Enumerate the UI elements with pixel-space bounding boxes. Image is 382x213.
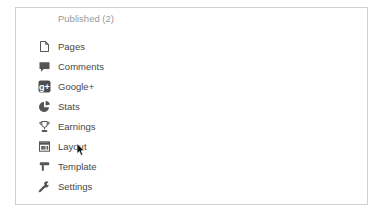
layout-icon [38,140,51,153]
sidebar-item-label: Stats [58,100,80,113]
svg-text:g+: g+ [39,81,50,91]
pages-icon [38,40,51,53]
sidebar-item-label: Pages [58,40,85,53]
sidebar-panel: Published (2) Pages Comments [15,7,368,205]
template-icon [38,160,51,173]
sidebar-item-layout[interactable]: Layout [16,136,367,156]
sidebar-item-stats[interactable]: Stats [16,96,367,116]
earnings-icon [38,120,51,133]
sidebar-item-label: Template [58,160,97,173]
settings-icon [38,180,51,193]
sidebar-item-label: Comments [58,60,104,73]
sidebar-item-label: Google+ [58,80,94,93]
sidebar-item-template[interactable]: Template [16,156,367,176]
comments-icon [38,60,51,73]
sidebar-item-label: Settings [58,180,92,193]
sidebar-item-earnings[interactable]: Earnings [16,116,367,136]
sidebar-item-settings[interactable]: Settings [16,176,367,196]
sidebar-item-pages[interactable]: Pages [16,36,367,56]
sidebar-item-label: Layout [58,140,87,153]
sidebar-item-label: Earnings [58,120,96,133]
googleplus-icon: g+ [38,80,51,93]
sidebar-item-googleplus[interactable]: g+ Google+ [16,76,367,96]
published-posts-link[interactable]: Published (2) [58,13,114,25]
sidebar-menu: Pages Comments g+ Google+ [16,36,367,196]
sidebar-item-comments[interactable]: Comments [16,56,367,76]
stats-icon [38,100,51,113]
